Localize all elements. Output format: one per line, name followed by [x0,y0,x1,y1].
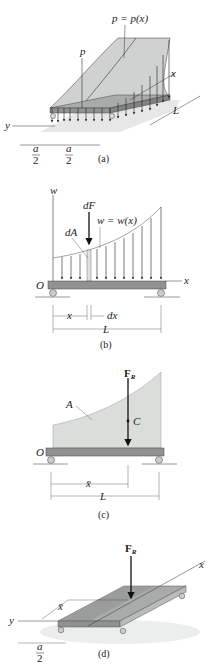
dim-xbar-line [42,600,68,619]
origin-label: O [36,279,44,291]
roller-right [158,290,165,297]
caption-a: (a) [98,153,109,165]
dim-a-half-1-num: a [33,142,39,154]
dim-a-half-2-num: a [66,142,72,154]
plate-front [58,621,120,627]
roller [58,627,64,633]
roller [120,628,126,634]
dim-xbar-label: x̄ [85,477,91,489]
w-axis-label: w [50,184,58,196]
origin-label: O [36,446,44,458]
dF-label: dF [83,199,96,211]
roller-left [48,457,55,464]
y-axis-label: y [8,614,14,626]
caption-b: (b) [100,339,112,351]
caption-d: (d) [98,648,110,660]
caption-c: (c) [98,509,109,521]
roller [110,114,115,119]
x-axis-label: x [183,274,189,286]
load-function-label: p = p(x) [111,12,148,25]
roller-right [156,457,163,464]
plate-front [50,108,110,113]
x-axis-label: x [198,558,204,570]
centroid-point [127,420,130,423]
dim-a-half-1-den: 2 [33,154,39,166]
dim-L-label: L [99,490,106,502]
roller [179,593,185,599]
dim-a-half-num: a [37,640,43,652]
beam [48,281,166,289]
figure-c: A FR C O x̄ L (c) [33,367,177,521]
roller-left [50,290,57,297]
dA-label: dA [65,226,78,238]
beam [46,448,164,456]
figure-d: x y FR x̄ a 2 (d) [8,542,205,664]
dim-xbar-label: x̄ [57,600,63,612]
y-axis-label: y [4,119,10,131]
dim-L-label: L [102,323,109,335]
figure-b: w dF w = w(x) dA x O [35,184,189,351]
roller [51,114,56,119]
p-axis-label: p [79,45,86,57]
dim-a-half-den: 2 [37,652,43,664]
dim-dx-label: dx [107,309,118,321]
resultant-force-label: FR [124,367,136,381]
distributed-load-figures: p = p(x) p x y L a 2 a 2 (a) w [0,0,211,671]
load-function-label: w = w(x) [97,214,137,227]
area-A-label: A [65,398,73,410]
dA-strip [87,250,91,281]
x-axis-label: x [170,67,176,79]
dim-L-label: L [172,104,179,116]
dim-a-half-2-den: 2 [66,154,72,166]
dim-x-label: x [66,309,72,321]
resultant-force-label: FR [125,542,137,556]
load-area-A [53,372,161,448]
centroid-label: C [133,415,141,427]
x-axis [88,561,205,626]
figure-a: p = p(x) p x y L a 2 a 2 (a) [4,12,200,166]
